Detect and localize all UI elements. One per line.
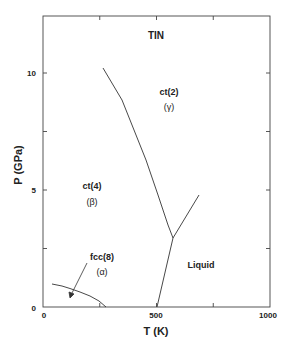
- chart-title: TIN: [148, 30, 164, 41]
- x-axis-label: T (K): [143, 325, 168, 337]
- phase-diagram: 0 5 10 0 500 1000 T (K) P (GPa) TIN ct(2…: [0, 0, 293, 348]
- y-tick-label-5: 5: [32, 186, 37, 195]
- alpha-symbol-label: (α): [96, 267, 107, 277]
- beta-phase-label: ct(4): [82, 181, 101, 191]
- phase-boundaries: [52, 68, 199, 307]
- liquid-phase-label: Liquid: [188, 260, 215, 270]
- gamma-symbol-label: (γ): [164, 102, 175, 112]
- y-ticks: [43, 73, 270, 249]
- y-tick-label-10: 10: [27, 69, 36, 78]
- gamma-phase-label: ct(2): [159, 87, 178, 97]
- alpha-arrow: [69, 263, 87, 298]
- beta-symbol-label: (β): [86, 197, 97, 207]
- alpha-phase-label: fcc(8): [90, 252, 114, 262]
- x-tick-label-500: 500: [149, 311, 163, 320]
- y-tick-label-0: 0: [32, 304, 37, 313]
- x-tick-label-1000: 1000: [259, 311, 277, 320]
- x-tick-label-0: 0: [42, 311, 47, 320]
- beta-liquid-boundary: [157, 238, 173, 307]
- gamma-liquid-boundary: [173, 195, 199, 238]
- plot-frame: [43, 16, 270, 307]
- y-axis-label: P (GPa): [12, 145, 24, 185]
- alpha-beta-boundary: [52, 284, 106, 307]
